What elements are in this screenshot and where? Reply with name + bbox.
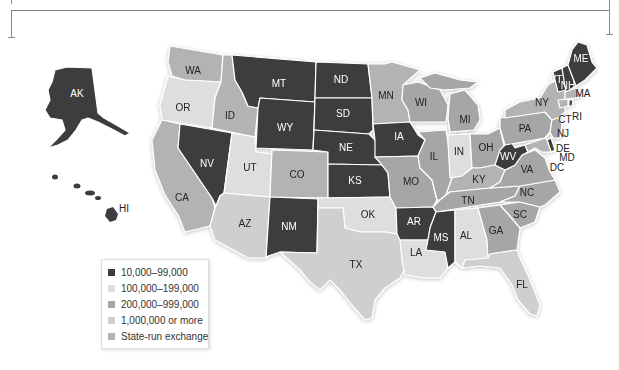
us-map: AK HI WA OR CA ID NV: [0, 0, 619, 370]
state-label-NE: NE: [339, 142, 353, 153]
state-OR[interactable]: OR: [160, 76, 221, 128]
state-label-AZ: AZ: [239, 218, 252, 229]
state-label-MA: MA: [576, 88, 591, 99]
state-CT[interactable]: [558, 99, 568, 108]
state-label-OH: OH: [479, 142, 494, 153]
legend-item-10k-99k: 10,000–99,000: [108, 264, 202, 280]
legend: 10,000–99,000 100,000–199,000 200,000–99…: [101, 259, 209, 349]
state-RI[interactable]: [569, 100, 573, 106]
legend-label: State-run exchange: [121, 331, 208, 342]
state-label-WA: WA: [185, 65, 201, 76]
state-label-ND: ND: [334, 74, 348, 85]
legend-swatch-dark: [108, 269, 115, 276]
state-label-CT: CT: [558, 114, 571, 125]
legend-swatch-mid: [108, 301, 115, 308]
state-AZ[interactable]: AZ: [210, 193, 270, 258]
legend-label: 200,000–999,000: [121, 299, 199, 310]
state-label-OK: OK: [361, 209, 376, 220]
state-label-MO: MO: [403, 176, 419, 187]
legend-label: 1,000,000 or more: [121, 315, 203, 326]
state-label-MN: MN: [378, 90, 394, 101]
state-label-VA: VA: [521, 164, 534, 175]
state-label-WY: WY: [277, 122, 293, 133]
legend-item-200k-999k: 200,000–999,000: [108, 296, 202, 312]
state-IA[interactable]: IA: [373, 122, 425, 157]
state-label-WI: WI: [415, 97, 427, 108]
state-WA[interactable]: WA: [168, 46, 223, 82]
state-label-ID: ID: [225, 110, 235, 121]
state-label-NM: NM: [281, 221, 297, 232]
legend-label: 10,000–99,000: [121, 267, 188, 278]
legend-item-state-run: State-run exchange: [108, 328, 202, 344]
legend-label: 100,000–199,000: [121, 283, 199, 294]
legend-swatch-lightest: [108, 285, 115, 292]
state-label-TX: TX: [350, 259, 363, 270]
state-label-ME: ME: [574, 53, 589, 64]
state-label-MT: MT: [272, 78, 286, 89]
legend-item-1m-plus: 1,000,000 or more: [108, 312, 202, 328]
state-label-SC: SC: [513, 209, 527, 220]
state-label-OR: OR: [176, 102, 191, 113]
state-label-CO: CO: [290, 169, 305, 180]
state-label-NC: NC: [520, 187, 534, 198]
state-label-IN: IN: [454, 146, 464, 157]
state-label-AR: AR: [407, 216, 421, 227]
state-FL[interactable]: FL: [462, 250, 540, 316]
legend-swatch-state-run: [108, 333, 115, 340]
legend-swatch-light: [108, 317, 115, 324]
state-WY[interactable]: WY: [256, 98, 315, 150]
state-label-SD: SD: [336, 108, 350, 119]
legend-item-100k-199k: 100,000–199,000: [108, 280, 202, 296]
state-KS[interactable]: KS: [328, 164, 390, 198]
state-SD[interactable]: SD: [314, 98, 373, 134]
state-label-IL: IL: [430, 151, 439, 162]
state-label-HI: HI: [119, 203, 129, 214]
state-label-MS: MS: [434, 232, 449, 243]
state-label-PA: PA: [519, 123, 532, 134]
state-AK[interactable]: AK: [45, 67, 130, 148]
state-label-NY: NY: [535, 97, 549, 108]
state-label-IA: IA: [394, 131, 404, 142]
state-label-UT: UT: [243, 162, 256, 173]
state-label-AK: AK: [70, 88, 84, 99]
state-label-CA: CA: [175, 192, 189, 203]
state-label-GA: GA: [489, 225, 504, 236]
state-label-AL: AL: [460, 230, 473, 241]
state-label-NV: NV: [200, 158, 214, 169]
state-label-LA: LA: [410, 247, 423, 258]
state-label-FL: FL: [516, 279, 528, 290]
state-label-TN: TN: [461, 195, 474, 206]
state-label-WV: WV: [500, 151, 516, 162]
state-label-MI: MI: [459, 114, 470, 125]
state-NM[interactable]: NM: [266, 197, 318, 258]
state-HI[interactable]: HI: [52, 175, 129, 223]
state-CO[interactable]: CO: [270, 150, 328, 198]
state-label-DC: DC: [550, 162, 564, 173]
state-label-RI: RI: [572, 111, 582, 122]
state-label-KY: KY: [472, 174, 486, 185]
state-label-KS: KS: [348, 175, 362, 186]
state-ND[interactable]: ND: [315, 62, 372, 98]
state-label-NJ: NJ: [557, 128, 569, 139]
